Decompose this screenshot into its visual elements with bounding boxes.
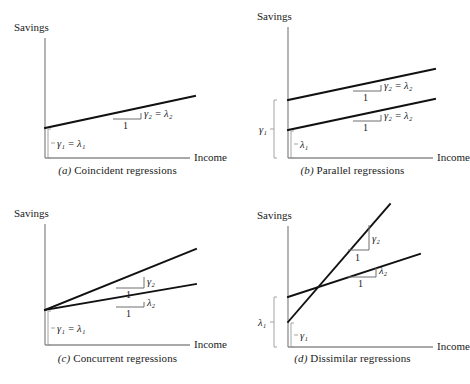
regression-line-steep xyxy=(45,249,196,310)
panel-d-dissimilar: Savings Income 1 γ₂ 1 λ₂ λ₁ γ₁ (d) Dissi… xyxy=(235,192,470,384)
panel-c-concurrent: Savings Income 1 γ₂ 1 λ₂ γ₁ = λ₁ (c) Con… xyxy=(0,192,235,384)
panel-b-caption-letter: (b) xyxy=(301,164,314,176)
x-axis-label: Income xyxy=(194,151,227,163)
run-label-shallow: 1 xyxy=(126,308,131,319)
y-axis-label: Savings xyxy=(14,21,49,33)
run-label-steep: 1 xyxy=(126,289,131,300)
y-axis-label: Savings xyxy=(14,207,49,219)
regression-line-lower xyxy=(288,99,435,130)
slope-label-shallow: λ₂ xyxy=(146,297,156,308)
panel-b-caption: (b) Parallel regressions xyxy=(235,164,470,176)
panel-a-coincident: Savings Income 1 γ₂ = λ₂ γ₁ = λ₁ (a) Coi… xyxy=(0,0,235,192)
slope-label-steep: γ₂ xyxy=(372,233,380,244)
lambda1-label: λ₁ xyxy=(257,317,266,328)
regression-comparison-figure: Savings Income 1 γ₂ = λ₂ γ₁ = λ₁ (a) Coi… xyxy=(0,0,470,384)
panel-a-caption-text: Coincident regressions xyxy=(74,164,177,176)
lambda1-brace xyxy=(270,297,277,347)
y-axis-label: Savings xyxy=(257,10,292,22)
slope-label-steep: γ₂ xyxy=(147,276,155,287)
intercept-label: γ₁ = λ₁ xyxy=(57,323,85,334)
intercept-brace xyxy=(48,129,55,158)
slope-label-lower: γ₂ = λ₂ xyxy=(384,110,413,121)
panel-d-caption-text: Dissimilar regressions xyxy=(310,352,410,364)
panel-d-caption: (d) Dissimilar regressions xyxy=(235,352,470,364)
run-label-upper: 1 xyxy=(363,92,368,103)
panel-c-caption-letter: (c) xyxy=(58,352,71,364)
regression-line-upper xyxy=(288,69,435,100)
run-label-shallow: 1 xyxy=(358,278,363,289)
y-axis-label: Savings xyxy=(257,209,292,221)
slope-triangle-steep xyxy=(348,225,369,250)
x-axis-label: Income xyxy=(437,151,470,163)
lambda1-brace xyxy=(291,131,298,158)
gamma1-label: γ₁ xyxy=(300,330,308,341)
panel-d-caption-letter: (d) xyxy=(294,352,307,364)
x-axis-label: Income xyxy=(194,338,227,350)
panel-b-parallel: Savings Income 1 γ₂ = λ₂ 1 γ₂ = λ₂ γ₁ λ₁… xyxy=(235,0,470,192)
gamma1-brace xyxy=(270,100,277,158)
gamma1-brace xyxy=(291,323,298,347)
slope-label-upper: γ₂ = λ₂ xyxy=(384,80,413,91)
slope-label-shallow: λ₂ xyxy=(378,265,388,276)
panel-c-caption: (c) Concurrent regressions xyxy=(0,352,235,364)
panel-b-caption-text: Parallel regressions xyxy=(317,164,405,176)
slope-label: γ₂ = λ₂ xyxy=(144,108,173,119)
intercept-label: γ₁ = λ₁ xyxy=(57,138,85,149)
regression-line-coincident xyxy=(45,96,195,128)
panel-a-caption: (a) Coincident regressions xyxy=(0,164,235,176)
panel-a-caption-letter: (a) xyxy=(58,164,71,176)
slope-triangle-shallow xyxy=(116,302,144,307)
lambda1-label: λ₁ xyxy=(299,139,308,150)
regression-line-steep xyxy=(288,204,390,322)
intercept-brace xyxy=(48,311,55,345)
panel-c-caption-text: Concurrent regressions xyxy=(73,352,177,364)
regression-line-shallow xyxy=(288,254,420,297)
x-axis-label: Income xyxy=(437,340,470,352)
run-label: 1 xyxy=(123,120,128,131)
slope-triangle xyxy=(113,113,141,119)
run-label-lower: 1 xyxy=(363,122,368,133)
run-label-steep: 1 xyxy=(355,252,360,263)
gamma1-label: γ₁ xyxy=(259,124,267,135)
